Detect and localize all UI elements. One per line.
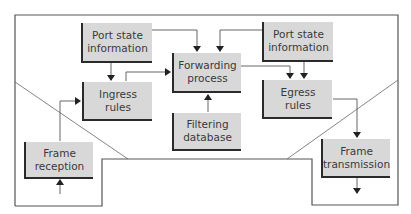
ingress-rules-box: Ingress rules xyxy=(82,82,152,121)
forwarding-process-box: Forwarding process xyxy=(172,53,241,93)
egress-rules-box: Egress rules xyxy=(262,80,332,119)
port-state-information-right-box: Port state information xyxy=(262,22,333,62)
filtering-database-box: Filtering database xyxy=(172,113,241,151)
frame-transmission-box: Frame transmission xyxy=(321,139,390,178)
port-state-information-left-box: Port state information xyxy=(81,23,152,63)
frame-reception-box: Frame reception xyxy=(24,142,93,179)
diagram-connectors xyxy=(0,0,411,214)
